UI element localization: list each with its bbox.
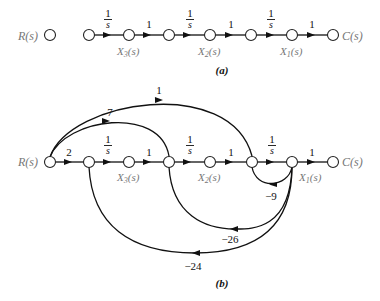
node-a-3 <box>164 30 175 41</box>
gain-a-2: 1 <box>146 18 152 30</box>
svg-text:s: s <box>188 19 192 30</box>
node-b-2 <box>84 157 95 168</box>
state-label-x2-a: X2(s) <box>197 45 221 59</box>
gain-b-6: 1 s <box>268 133 276 156</box>
input-node-b <box>45 157 56 168</box>
input-node-a <box>45 30 56 41</box>
caption-a: (a) <box>216 64 229 77</box>
input-label-a: R(s) <box>17 29 38 43</box>
arrow-icon <box>103 32 111 38</box>
node-a-1 <box>84 30 95 41</box>
arrow-icon <box>192 250 200 256</box>
diagram-a: R(s) 1 s 1 1 s <box>17 7 363 77</box>
svg-text:1: 1 <box>187 133 193 145</box>
state-label-x3-a: X3(s) <box>116 45 140 59</box>
output-node-b <box>328 157 339 168</box>
arrow-icon <box>225 32 233 38</box>
node-b-5 <box>205 157 216 168</box>
signal-flow-graphs: R(s) 1 s 1 1 s <box>0 0 380 301</box>
arrow-icon <box>143 32 151 38</box>
node-a-4 <box>205 30 216 41</box>
node-b-x1 <box>287 157 298 168</box>
gain-b-3: 1 <box>146 146 152 158</box>
node-a-2 <box>124 30 135 41</box>
input-label-b: R(s) <box>17 155 38 169</box>
arrow-icon <box>183 159 191 165</box>
svg-text:1: 1 <box>269 133 275 145</box>
arrow-icon <box>307 159 315 165</box>
node-b-4 <box>164 157 175 168</box>
caption-b: (b) <box>216 277 229 290</box>
arrow-icon <box>266 32 274 38</box>
state-label-x3-b: X3(s) <box>116 171 140 185</box>
gain-a-6: 1 <box>309 18 315 30</box>
gain-a-4: 1 <box>228 18 234 30</box>
svg-text:s: s <box>269 19 273 30</box>
arrow-icon <box>266 159 274 165</box>
state-label-x1-a: X1(s) <box>279 45 303 59</box>
gain-a-5: 1 s <box>267 7 275 30</box>
node-b-3 <box>124 157 135 168</box>
arrow-icon <box>307 32 315 38</box>
state-label-x1-b: X1(s) <box>298 171 322 185</box>
gain-a-3: 1 s <box>186 7 194 30</box>
output-node-a <box>328 30 339 41</box>
node-a-5 <box>246 30 257 41</box>
svg-text:1: 1 <box>268 7 274 19</box>
diagram-b: 1 7 −9 −26 −24 <box>17 84 363 290</box>
feedforward-gain-7: 7 <box>107 106 113 118</box>
arrow-icon <box>230 226 238 232</box>
state-label-x2-b: X2(s) <box>197 171 221 185</box>
arrow-icon <box>269 182 277 187</box>
svg-text:s: s <box>188 145 192 156</box>
arrow-icon <box>155 97 163 103</box>
svg-text:1: 1 <box>105 133 111 145</box>
node-b-6 <box>247 157 258 168</box>
svg-text:s: s <box>270 145 274 156</box>
gain-a-1: 1 s <box>104 7 112 30</box>
arrow-icon <box>143 159 151 165</box>
arrow-icon <box>103 159 111 165</box>
svg-text:1: 1 <box>105 7 111 19</box>
arrow-icon <box>183 32 191 38</box>
feedback-gain-neg9: −9 <box>265 190 277 202</box>
feedforward-gain-1: 1 <box>156 84 162 96</box>
gain-b-5: 1 <box>228 146 234 158</box>
output-label-b: C(s) <box>342 155 363 169</box>
svg-text:s: s <box>106 19 110 30</box>
arrow-icon <box>64 159 72 165</box>
output-label-a: C(s) <box>342 29 363 43</box>
feedback-gain-neg24: −24 <box>184 260 202 272</box>
feedback-gain-neg26: −26 <box>221 233 239 245</box>
gain-b-1: 2 <box>66 146 72 158</box>
arrow-icon <box>225 159 233 165</box>
gain-b-2: 1 s <box>104 133 112 156</box>
svg-text:s: s <box>106 145 110 156</box>
gain-b-7: 1 <box>309 146 315 158</box>
gain-b-4: 1 s <box>186 133 194 156</box>
svg-text:1: 1 <box>187 7 193 19</box>
node-a-6 <box>287 30 298 41</box>
feedback-branch-neg9 <box>252 167 292 184</box>
